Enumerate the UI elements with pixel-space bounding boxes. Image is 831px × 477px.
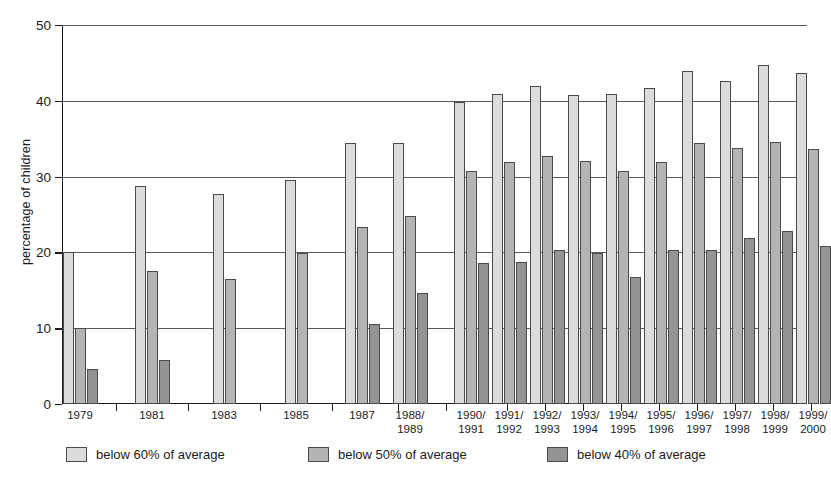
legend-label: below 50% of average [338, 447, 467, 462]
bar-group [720, 25, 755, 404]
bar [796, 73, 807, 404]
bar [554, 250, 565, 404]
x-axis-label-line: 1999/ [799, 409, 828, 423]
bar [618, 171, 629, 404]
bar [656, 162, 667, 404]
x-axis-label-line: 1999 [761, 423, 790, 437]
bar [580, 161, 591, 404]
bar [694, 143, 705, 405]
bar [63, 252, 74, 404]
bar-group [758, 25, 793, 404]
y-tick-label: 20 [36, 245, 51, 260]
x-axis-label-line: 2000 [799, 423, 828, 437]
bar [504, 162, 515, 404]
bar [454, 102, 465, 404]
x-axis-label: 1985 [283, 409, 309, 423]
y-tick-label: 0 [43, 397, 51, 412]
bar-group [285, 25, 308, 404]
bar [417, 293, 428, 404]
x-axis-label: 1979 [67, 409, 93, 423]
bar [405, 216, 416, 404]
x-axis-label-line: 1989 [396, 423, 425, 437]
x-axis-label: 1992/1993 [533, 409, 562, 436]
bar [758, 65, 769, 404]
bar [606, 94, 617, 404]
bar-group [568, 25, 603, 404]
x-axis-label: 1983 [211, 409, 237, 423]
bar-group [345, 25, 380, 404]
y-tick-mark [55, 177, 62, 178]
x-axis-label-line: 1987 [349, 409, 375, 423]
x-axis-label-line: 1995/ [647, 409, 676, 423]
bar [87, 369, 98, 404]
bar-groups [62, 25, 807, 404]
bar-group [796, 25, 831, 404]
bar [466, 171, 477, 404]
legend-item[interactable]: below 50% of average [308, 447, 467, 462]
legend-item[interactable]: below 40% of average [547, 447, 706, 462]
bar [592, 253, 603, 404]
bar-group [63, 25, 98, 404]
dark-gray-swatch [547, 447, 568, 462]
bar [357, 227, 368, 404]
bar [720, 81, 731, 404]
x-axis-label-line: 1992/ [533, 409, 562, 423]
x-axis-label-line: 1995 [609, 423, 638, 437]
x-axis-label: 1990/1991 [457, 409, 486, 436]
bar [630, 277, 641, 404]
x-axis-label-line: 1981 [139, 409, 165, 423]
y-axis-title: percentage of children [19, 92, 33, 312]
bar [808, 149, 819, 404]
bar-group [135, 25, 170, 404]
x-axis-label-line: 1993 [533, 423, 562, 437]
bar [369, 324, 380, 404]
bar [492, 94, 503, 404]
legend-label: below 40% of average [577, 447, 706, 462]
bar [782, 231, 793, 404]
legend-label: below 60% of average [96, 447, 225, 462]
x-axis-label-line: 1990/ [457, 409, 486, 423]
x-axis-label-line: 1992 [495, 423, 524, 437]
x-axis-label: 1996/1997 [685, 409, 714, 436]
x-axis-label-line: 1983 [211, 409, 237, 423]
legend-item[interactable]: below 60% of average [66, 447, 225, 462]
x-axis-label-line: 1997/ [723, 409, 752, 423]
bar [820, 246, 831, 404]
x-axis-label-line: 1991 [457, 423, 486, 437]
bar-group [213, 25, 236, 404]
x-axis-label: 1988/1989 [396, 409, 425, 436]
y-tick-label: 40 [36, 93, 51, 108]
bar [147, 271, 158, 404]
bar [393, 143, 404, 405]
x-axis-label-line: 1996 [647, 423, 676, 437]
bar-group [606, 25, 641, 404]
bar [644, 88, 655, 404]
x-axis-label: 1987 [349, 409, 375, 423]
y-tick-label: 30 [36, 169, 51, 184]
bar [75, 328, 86, 404]
x-axis-label-line: 1994/ [609, 409, 638, 423]
bar [770, 142, 781, 404]
x-axis-label-line: 1997 [685, 423, 714, 437]
bar-group [393, 25, 428, 404]
bar [159, 360, 170, 404]
bar [225, 279, 236, 404]
bar-group [492, 25, 527, 404]
x-axis-label-line: 1994 [571, 423, 600, 437]
y-tick-label: 10 [36, 321, 51, 336]
x-axis-label-line: 1998 [723, 423, 752, 437]
x-axis-label: 1995/1996 [647, 409, 676, 436]
x-axis-label: 1993/1994 [571, 409, 600, 436]
x-axis-label-line: 1998/ [761, 409, 790, 423]
x-axis-label-line: 1996/ [685, 409, 714, 423]
y-tick-mark [55, 252, 62, 253]
bar [213, 194, 224, 404]
y-tick-mark [55, 25, 62, 26]
x-axis-label: 1998/1999 [761, 409, 790, 436]
medium-gray-swatch [308, 447, 329, 462]
bar [345, 143, 356, 405]
y-tick-mark [55, 328, 62, 329]
bar [297, 253, 308, 404]
bar [744, 238, 755, 404]
bar [732, 148, 743, 404]
